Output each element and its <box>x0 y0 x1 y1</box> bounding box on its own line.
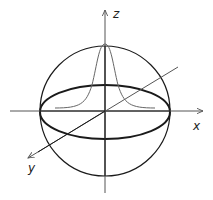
y-axis-label: y <box>27 161 36 175</box>
z-axis-label: z <box>112 7 120 21</box>
x-axis-label: x <box>192 119 201 133</box>
sphere-diagram: z x y <box>0 0 213 200</box>
